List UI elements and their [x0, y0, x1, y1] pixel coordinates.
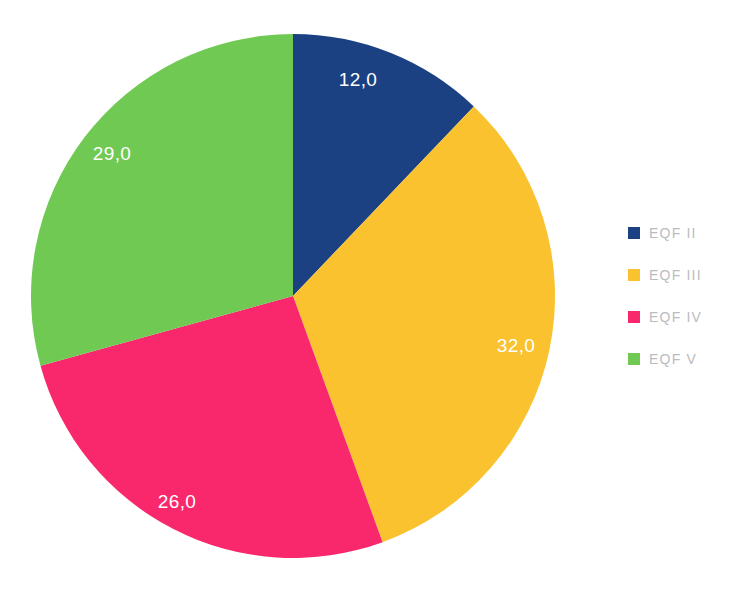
- legend-item-label: EQF IV: [649, 310, 702, 324]
- pie-slice-value-label: 12,0: [339, 69, 378, 90]
- legend-swatch-icon: [628, 353, 640, 365]
- chart-legend: EQF IIEQF IIIEQF IVEQF V: [628, 226, 733, 366]
- legend-item-label: EQF III: [649, 268, 702, 282]
- pie-slices-group: [31, 34, 555, 558]
- pie-svg: 12,032,026,029,0: [0, 0, 600, 595]
- pie-plot-area: 12,032,026,029,0: [0, 0, 600, 595]
- legend-item-label: EQF II: [649, 226, 697, 240]
- pie-slice-value-label: 32,0: [497, 335, 536, 356]
- legend-item-label: EQF V: [649, 352, 697, 366]
- pie-chart-figure: 12,032,026,029,0 EQF IIEQF IIIEQF IVEQF …: [0, 0, 733, 595]
- legend-item[interactable]: EQF III: [628, 268, 733, 282]
- legend-swatch-icon: [628, 311, 640, 323]
- legend-item[interactable]: EQF IV: [628, 310, 733, 324]
- legend-swatch-icon: [628, 269, 640, 281]
- legend-item[interactable]: EQF II: [628, 226, 733, 240]
- legend-item[interactable]: EQF V: [628, 352, 733, 366]
- pie-slice-value-label: 29,0: [93, 143, 132, 164]
- pie-slice-value-label: 26,0: [158, 491, 197, 512]
- legend-swatch-icon: [628, 227, 640, 239]
